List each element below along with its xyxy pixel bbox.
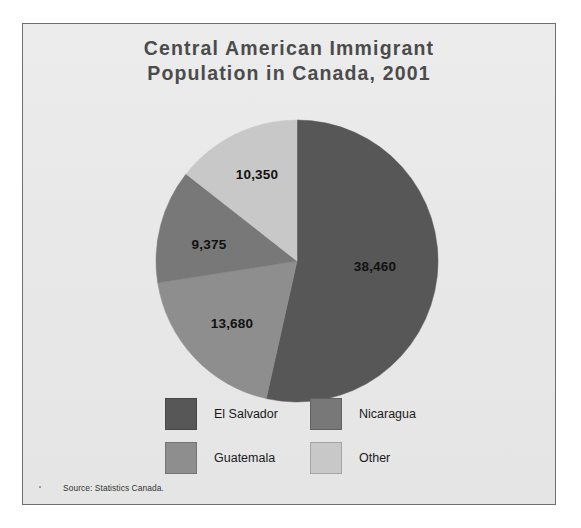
legend-swatch-el-salvador [165,398,197,430]
pie-label-guatemala: 13,680 [211,316,254,331]
legend-item-other[interactable]: Other [310,442,455,474]
legend-label-other: Other [359,451,390,465]
pie-label-nicaragua: 9,375 [192,237,227,252]
pie-label-el-salvador: 38,460 [354,259,397,274]
legend-label-el-salvador: El Salvador [214,407,278,421]
legend-item-el-salvador[interactable]: El Salvador [165,398,310,430]
legend-swatch-other [310,442,342,474]
pie-label-other: 10,350 [236,167,279,182]
legend-item-nicaragua[interactable]: Nicaragua [310,398,455,430]
legend: El SalvadorNicaraguaGuatemalaOther [165,392,455,480]
legend-swatch-guatemala [165,442,197,474]
legend-label-nicaragua: Nicaragua [359,407,416,421]
legend-row: GuatemalaOther [165,436,455,480]
source-note: Source: Statistics Canada. [63,482,164,493]
legend-item-guatemala[interactable]: Guatemala [165,442,310,474]
legend-swatch-nicaragua [310,398,342,430]
corner-mark [39,486,41,488]
legend-row: El SalvadorNicaragua [165,392,455,436]
figure-frame: Central American Immigrant Population in… [22,23,556,505]
legend-label-guatemala: Guatemala [214,451,275,465]
